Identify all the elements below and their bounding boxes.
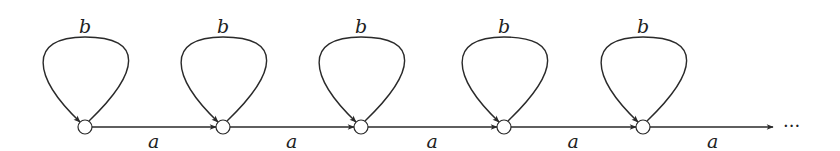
self-loop-edge [462, 37, 548, 122]
self-loop-edge [181, 37, 267, 122]
self-loop-edge [601, 37, 687, 122]
state-node [497, 120, 511, 134]
self-loop-label: b [79, 15, 91, 37]
state-node [354, 120, 368, 134]
state-node [636, 120, 650, 134]
transition-label: a [707, 130, 718, 151]
continuation-ellipsis: ··· [783, 115, 800, 136]
self-loop-label: b [637, 15, 649, 37]
self-loop-label: b [217, 15, 229, 37]
transition-label: a [148, 130, 159, 151]
self-loop-label: b [498, 15, 510, 37]
self-loop-label: b [355, 15, 367, 37]
transition-label: a [568, 130, 579, 151]
state-diagram: bbbbbaaaaa ··· [0, 0, 840, 151]
state-node [216, 120, 230, 134]
self-loop-edge [319, 37, 405, 122]
self-loops [43, 37, 687, 122]
self-loop-edge [43, 37, 129, 122]
transition-label: a [286, 130, 297, 151]
edge-labels: bbbbbaaaaa [79, 15, 718, 151]
transition-label: a [427, 130, 438, 151]
state-node [78, 120, 92, 134]
